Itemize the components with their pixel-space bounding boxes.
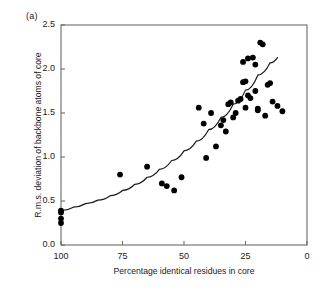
y-tick-label: 2.0: [29, 63, 55, 73]
x-tick-label: 50: [169, 251, 199, 261]
data-point: [171, 188, 177, 194]
data-point: [243, 78, 249, 84]
data-point: [218, 122, 224, 128]
plot-canvas: [0, 0, 330, 293]
axes-frame: [61, 25, 307, 245]
data-point: [223, 129, 229, 135]
x-tick-label: 0: [292, 251, 322, 261]
data-point: [260, 41, 266, 47]
data-point: [164, 183, 170, 189]
data-point: [245, 56, 251, 62]
data-point: [117, 172, 123, 178]
data-point: [255, 107, 261, 113]
y-tick-label: 2.5: [29, 19, 55, 29]
data-point: [238, 96, 244, 102]
data-point: [213, 144, 219, 150]
data-point: [228, 100, 234, 106]
data-point: [179, 174, 185, 180]
x-tick-label: 75: [108, 251, 138, 261]
data-point: [240, 59, 246, 65]
data-points: [58, 40, 285, 226]
data-point: [220, 117, 226, 123]
figure-panel-a: (a) R.m.s. deviation of backbone atoms o…: [0, 0, 330, 293]
y-tick-label: 1.5: [29, 107, 55, 117]
data-point: [58, 210, 64, 216]
data-point: [252, 62, 258, 68]
data-point: [280, 108, 286, 114]
data-point: [196, 105, 202, 111]
data-point: [208, 110, 214, 116]
y-tick-label: 0.0: [29, 239, 55, 249]
x-tick-label: 25: [231, 251, 261, 261]
data-point: [144, 164, 150, 170]
axis-ticks: [61, 25, 307, 245]
data-point: [243, 105, 249, 111]
data-point: [248, 95, 254, 101]
data-point: [270, 99, 276, 105]
x-tick-label: 100: [46, 251, 76, 261]
data-point: [233, 110, 239, 116]
data-point: [262, 113, 268, 119]
data-point: [250, 55, 256, 61]
data-point: [252, 88, 258, 94]
data-point: [203, 155, 209, 161]
y-tick-label: 0.5: [29, 195, 55, 205]
data-point: [159, 181, 165, 187]
data-point: [58, 220, 64, 226]
data-point: [201, 121, 207, 127]
y-tick-label: 1.0: [29, 151, 55, 161]
data-point: [267, 80, 273, 86]
data-point: [275, 103, 281, 109]
